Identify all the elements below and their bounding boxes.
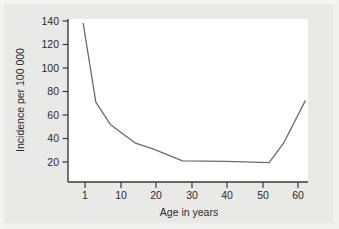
x-tick-label: 20 xyxy=(150,189,162,201)
plot-area-background xyxy=(68,19,308,182)
y-tick-marks xyxy=(63,21,69,162)
x-tick-label: 60 xyxy=(292,189,304,201)
x-tick-label: 1 xyxy=(82,189,88,201)
x-tick-label: 50 xyxy=(257,189,269,201)
x-tick-marks xyxy=(85,182,298,188)
y-tick-label: 120 xyxy=(41,38,59,50)
y-tick-label: 60 xyxy=(47,109,59,121)
y-tick-label: 80 xyxy=(47,85,59,97)
incidence-line-chart: 140 120 100 80 60 40 20 1 10 20 30 40 50… xyxy=(0,0,339,229)
y-tick-label: 100 xyxy=(41,62,59,74)
y-axis-title: Incidence per 100 000 xyxy=(14,48,26,152)
y-tick-label: 140 xyxy=(41,15,59,27)
x-tick-labels: 1 10 20 30 40 50 60 xyxy=(82,189,304,201)
x-tick-label: 30 xyxy=(186,189,198,201)
x-axis-title: Age in years xyxy=(160,206,218,218)
y-tick-label: 40 xyxy=(47,132,59,144)
chart-figure: 140 120 100 80 60 40 20 1 10 20 30 40 50… xyxy=(0,0,339,229)
y-tick-labels: 140 120 100 80 60 40 20 xyxy=(41,15,59,168)
x-tick-label: 40 xyxy=(221,189,233,201)
y-tick-label: 20 xyxy=(47,156,59,168)
x-tick-label: 10 xyxy=(115,189,127,201)
